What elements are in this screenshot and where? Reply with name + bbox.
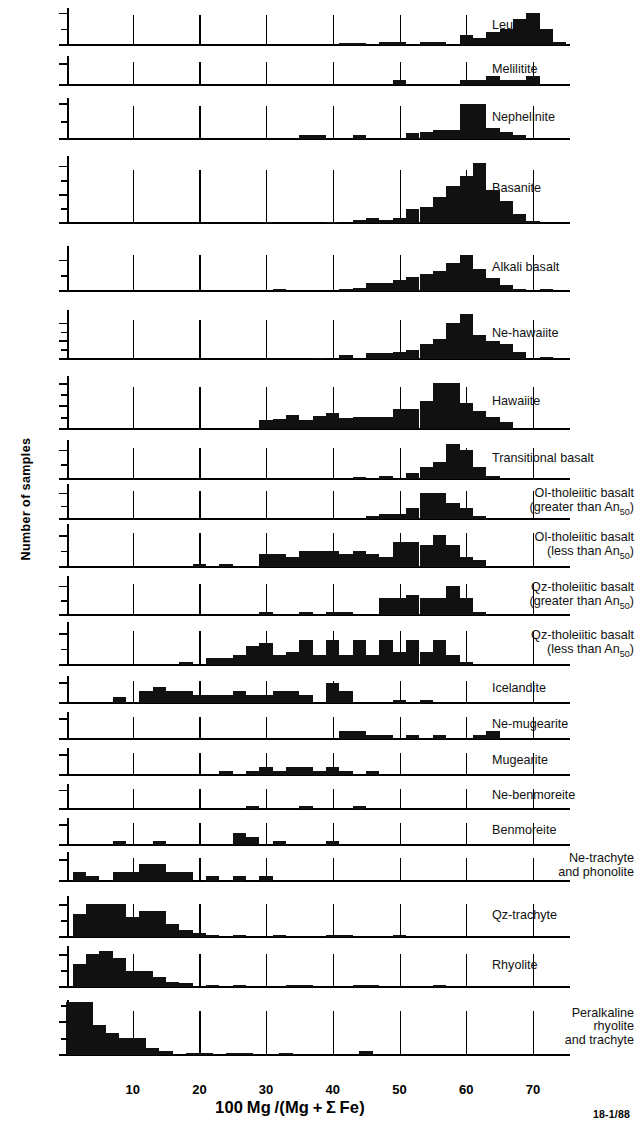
- histogram-bar: [126, 971, 139, 987]
- histogram-bar: [353, 135, 366, 139]
- histogram-panel: 010Transitional basalt: [0, 440, 638, 480]
- grid-tick: [266, 320, 267, 359]
- histogram-bar: [486, 128, 499, 139]
- y-axis-line: [67, 676, 69, 704]
- histogram-bar: [366, 985, 379, 987]
- y-minor-tick-mark: [61, 464, 68, 466]
- y-axis-line: [67, 310, 69, 360]
- y-tick-mark: [59, 166, 68, 168]
- y-minor-tick-mark: [61, 275, 68, 277]
- histogram-bar: [366, 735, 379, 739]
- panel-label-line: Basanite: [492, 182, 541, 196]
- histogram-bar: [259, 554, 272, 567]
- histogram-bar: [299, 612, 312, 615]
- grid-tick: [266, 491, 267, 519]
- histogram-bar: [433, 339, 446, 359]
- histogram-bar: [473, 163, 486, 223]
- y-axis-line: [67, 576, 69, 616]
- x-tick-label: 40: [313, 1082, 353, 1097]
- y-tick-mark: [59, 738, 68, 740]
- x-tick-label: 20: [179, 1082, 219, 1097]
- grid-tick: [333, 62, 334, 85]
- histogram-bar: [460, 508, 473, 518]
- histogram-bar: [379, 283, 392, 291]
- histogram-bar: [219, 564, 232, 567]
- panel-label: Ne-trachyteand phonolite: [558, 852, 634, 879]
- grid-tick: [199, 448, 200, 479]
- histogram-bar: [420, 207, 433, 223]
- histogram-bar: [473, 269, 486, 290]
- grid-tick: [133, 631, 134, 665]
- grid-tick: [133, 320, 134, 359]
- histogram-bar: [193, 564, 206, 567]
- y-tick-mark: [59, 535, 68, 537]
- panel-label: Qz-tholeiitic basalt(greater than An50): [529, 581, 634, 613]
- histogram-bar: [153, 864, 166, 881]
- grid-tick: [199, 387, 200, 429]
- y-axis-line: [67, 484, 69, 520]
- histogram-bar: [199, 1053, 212, 1055]
- grid-tick: [266, 584, 267, 615]
- grid-tick: [133, 62, 134, 85]
- grid-tick: [466, 789, 467, 809]
- y-tick-mark: [59, 566, 68, 568]
- histogram-bar: [239, 1053, 252, 1055]
- histogram-bar: [73, 914, 86, 937]
- histogram-bar: [473, 335, 486, 359]
- histogram-panel: 010Leucitite: [0, 8, 638, 46]
- panel-label-line: and trachyte: [565, 1034, 634, 1048]
- histogram-bar: [460, 598, 473, 615]
- y-tick-mark: [59, 405, 68, 407]
- histogram-bar: [299, 420, 312, 429]
- histogram-bar: [353, 477, 366, 479]
- y-minor-tick-mark: [61, 208, 68, 210]
- x-tick-label: 70: [513, 1082, 553, 1097]
- plot-area: 010: [67, 524, 570, 568]
- histogram-bar: [460, 255, 473, 290]
- histogram-bar: [66, 1002, 79, 1055]
- grid-tick: [199, 15, 200, 45]
- panel-label-line: Transitional basalt: [492, 452, 594, 466]
- y-axis-line: [67, 622, 69, 666]
- histogram-bar: [486, 417, 499, 428]
- histogram-bar: [406, 640, 419, 665]
- histogram-bar: [73, 964, 86, 987]
- grid-tick: [199, 62, 200, 85]
- histogram-bar: [133, 1038, 146, 1054]
- histogram-bar: [206, 935, 219, 937]
- histogram-bar: [146, 1048, 159, 1055]
- y-tick-mark: [59, 1021, 68, 1023]
- histogram-bar: [206, 876, 219, 880]
- histogram-bar: [193, 695, 206, 703]
- histogram-bar: [420, 493, 433, 519]
- histogram-bar: [406, 508, 419, 518]
- y-tick-mark: [59, 754, 68, 756]
- histogram-bar: [259, 876, 272, 880]
- histogram-bar: [460, 104, 473, 139]
- histogram-bar: [526, 76, 539, 85]
- histogram-bar: [113, 872, 126, 881]
- y-minor-tick-mark: [61, 332, 68, 334]
- y-tick-mark: [59, 222, 68, 224]
- histogram-bar: [366, 655, 379, 664]
- histogram-bar: [406, 133, 419, 138]
- histogram-bar: [326, 612, 339, 615]
- histogram-panel: 05Icelandite: [0, 676, 638, 704]
- grid-tick: [199, 106, 200, 139]
- grid-tick: [199, 904, 200, 937]
- grid-tick: [133, 681, 134, 703]
- grid-tick: [333, 717, 334, 739]
- histogram-bar: [179, 662, 192, 665]
- y-tick-mark: [59, 808, 68, 810]
- grid-tick: [199, 1011, 200, 1055]
- histogram-bar: [113, 958, 126, 987]
- histogram-bar: [359, 1051, 372, 1054]
- histogram-bar: [379, 640, 392, 665]
- y-tick-mark: [59, 774, 68, 776]
- grid-tick: [466, 858, 467, 881]
- histogram-bar: [339, 554, 352, 567]
- histogram-bar: [153, 977, 166, 987]
- x-tick-label: 30: [246, 1082, 286, 1097]
- y-minor-tick-mark: [61, 29, 68, 31]
- grid-tick: [400, 717, 401, 739]
